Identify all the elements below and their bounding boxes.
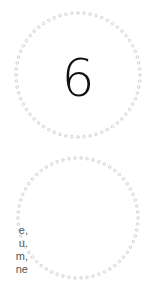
dot	[138, 62, 141, 65]
text-line-ending: m,	[0, 250, 28, 263]
dot	[77, 136, 80, 139]
dot	[17, 211, 20, 214]
dot	[37, 26, 40, 29]
page-number: 6	[48, 48, 108, 108]
dot	[74, 277, 77, 280]
dot	[92, 159, 95, 162]
dot	[40, 169, 43, 172]
dot	[31, 178, 34, 181]
dot	[53, 16, 56, 19]
dot	[25, 108, 28, 111]
dot	[22, 103, 25, 106]
dot	[80, 157, 83, 160]
dot	[31, 256, 34, 259]
dot	[15, 74, 18, 77]
dot	[68, 157, 71, 160]
dot	[113, 264, 116, 267]
dot	[42, 22, 45, 25]
dot	[128, 39, 131, 42]
dot	[80, 277, 83, 280]
dot	[95, 133, 98, 136]
dot	[138, 80, 141, 83]
dot	[100, 131, 103, 134]
cropped-text-column: e, u. m, ne	[0, 224, 28, 276]
dot	[111, 125, 114, 128]
dot	[136, 211, 139, 214]
dot	[45, 268, 48, 271]
dot	[131, 103, 134, 106]
dot	[138, 68, 141, 71]
dot	[129, 188, 132, 191]
dot	[71, 135, 74, 138]
dot	[16, 62, 19, 65]
dot	[116, 26, 119, 29]
dot	[134, 235, 137, 238]
dot	[92, 275, 95, 278]
dot	[126, 251, 129, 254]
dot	[74, 157, 77, 160]
dot	[68, 276, 71, 279]
dot	[17, 217, 20, 220]
dot	[103, 163, 106, 166]
dot	[15, 80, 18, 83]
dot	[125, 34, 128, 37]
lower-dotted-circle	[17, 157, 140, 279]
dot	[86, 276, 89, 279]
dot	[50, 271, 53, 274]
dot	[29, 113, 32, 116]
dot	[29, 34, 32, 37]
dot	[65, 13, 68, 16]
dot	[40, 264, 43, 267]
dot	[59, 14, 62, 17]
dot	[71, 12, 74, 15]
dot	[83, 12, 86, 15]
text-line-ending: u.	[0, 237, 28, 250]
dot	[16, 86, 19, 89]
dot	[17, 92, 20, 95]
dot	[135, 205, 138, 208]
dot	[89, 135, 92, 138]
dot	[113, 169, 116, 172]
dot	[83, 135, 86, 138]
dot	[19, 50, 22, 53]
dot	[122, 178, 125, 181]
dot	[132, 193, 135, 196]
dot	[103, 271, 106, 274]
dot	[89, 13, 92, 16]
dot	[65, 135, 68, 138]
dot	[139, 74, 142, 77]
dot	[128, 108, 131, 111]
dot	[22, 44, 25, 47]
dot	[100, 16, 103, 19]
dot	[18, 205, 21, 208]
dot	[131, 44, 134, 47]
dot	[134, 50, 137, 53]
dot	[45, 166, 48, 169]
dot	[24, 188, 27, 191]
dot	[106, 19, 109, 22]
dot	[132, 240, 135, 243]
dot	[25, 39, 28, 42]
text-line-ending: ne	[0, 263, 28, 276]
dot	[47, 19, 50, 22]
dot	[129, 246, 132, 249]
dot	[19, 199, 22, 202]
dot	[116, 122, 119, 125]
dot	[19, 97, 22, 100]
dot	[22, 193, 25, 196]
dot	[35, 260, 38, 263]
dot	[125, 113, 128, 116]
dot	[15, 68, 18, 71]
dot	[106, 128, 109, 131]
dot	[121, 30, 124, 33]
dot	[77, 12, 80, 15]
dot	[95, 14, 98, 17]
dot	[98, 273, 101, 276]
dot	[35, 173, 38, 176]
dot	[33, 118, 36, 121]
dot	[118, 173, 121, 176]
dot	[56, 160, 59, 163]
dot	[86, 157, 89, 160]
dot	[37, 122, 40, 125]
dot	[134, 97, 137, 100]
